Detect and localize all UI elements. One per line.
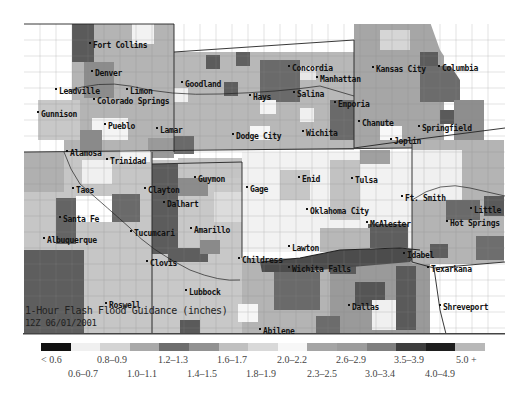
- legend-swatch: [396, 343, 426, 351]
- legend-swatch: [426, 343, 456, 351]
- city-label: Limon: [130, 87, 153, 96]
- city-label: Gage: [250, 185, 268, 194]
- legend-label: 1.4–1.5: [187, 368, 217, 379]
- legend-swatch: [337, 343, 367, 351]
- flash-flood-guidance-map: [0, 0, 519, 340]
- city-label: Emporia: [338, 100, 370, 109]
- city-label: Clovis: [150, 259, 177, 268]
- city-label: Wichita Falls: [292, 265, 351, 274]
- city-label: Idabel: [407, 251, 434, 260]
- city-label: Concordia: [292, 64, 333, 73]
- city-label: Enid: [302, 175, 320, 184]
- city-label: Texarkana: [431, 265, 472, 274]
- legend-label: 3.5–3.9: [394, 354, 424, 365]
- city-label: Goodland: [185, 80, 221, 89]
- city-label: Childress: [242, 256, 283, 265]
- city-label: Chanute: [362, 119, 394, 128]
- city-label: Lawton: [292, 244, 319, 253]
- city-label: Kansas City: [376, 65, 426, 74]
- legend-swatch: [307, 343, 337, 351]
- city-label: Fort Collins: [93, 41, 147, 50]
- legend-bottom-labels: 0.6–0.71.0–1.11.4–1.51.8–1.92.3–2.53.0–3…: [41, 368, 485, 382]
- legend-label: 5.0 +: [456, 354, 477, 365]
- legend-swatch: [130, 343, 160, 351]
- city-label: Lamar: [160, 126, 183, 135]
- legend-label: 2.3–2.5: [307, 368, 337, 379]
- legend-label: 3.0–3.4: [365, 368, 395, 379]
- city-label: Santa Fe: [63, 215, 99, 224]
- city-label: Little: [474, 206, 501, 215]
- city-label: Lubbock: [189, 288, 221, 297]
- legend-label: 2.0–2.2: [277, 354, 307, 365]
- legend-swatch: [219, 343, 249, 351]
- city-label: Dallas: [352, 303, 379, 312]
- city-label: Tucumcari: [134, 229, 175, 238]
- legend-swatch: [278, 343, 308, 351]
- city-label: Columbia: [442, 64, 478, 73]
- legend-swatch: [100, 343, 130, 351]
- legend-swatch: [189, 343, 219, 351]
- city-label: Manhattan: [320, 75, 361, 84]
- legend-swatch: [41, 343, 71, 351]
- city-label: Tulsa: [355, 176, 378, 185]
- legend-color-bar: [41, 343, 485, 351]
- city-label: Albuquerque: [47, 236, 97, 245]
- city-label: Wichita: [306, 129, 338, 138]
- legend-label: 1.8–1.9: [246, 368, 276, 379]
- map-date: 12Z 06/01/2001: [25, 318, 97, 328]
- city-label: Shreveport: [443, 303, 488, 312]
- city-label: Guymon: [198, 175, 225, 184]
- city-label: McAlester: [370, 220, 411, 229]
- city-label: Dodge City: [236, 132, 281, 141]
- legend-label: < 0.6: [41, 354, 62, 365]
- legend-label: 0.6–0.7: [68, 368, 98, 379]
- legend-top-labels: < 0.60.8–0.91.2–1.31.6–1.72.0–2.22.6–2.9…: [41, 354, 485, 368]
- city-label: Joplin: [394, 137, 421, 146]
- city-label: Ft. Smith: [405, 194, 446, 203]
- legend-label: 2.6–2.9: [336, 354, 366, 365]
- legend-label: 0.8–0.9: [97, 354, 127, 365]
- city-label: Oklahoma City: [310, 207, 369, 216]
- legend-label: 1.2–1.3: [158, 354, 188, 365]
- city-label: Leadville: [59, 87, 100, 96]
- legend-swatch: [248, 343, 278, 351]
- city-label: Clayton: [148, 186, 180, 195]
- legend-swatch: [71, 343, 101, 351]
- legend-swatch: [159, 343, 189, 351]
- city-label: Salina: [297, 90, 324, 99]
- legend-swatch: [455, 343, 485, 351]
- city-label: Alamosa: [70, 149, 102, 158]
- map-title: 1-Hour Flash Flood Guidance (inches): [25, 305, 227, 316]
- city-label: Abilene: [263, 327, 295, 336]
- city-label: Gunnison: [41, 110, 77, 119]
- legend: < 0.60.8–0.91.2–1.31.6–1.72.0–2.22.6–2.9…: [41, 343, 485, 382]
- city-label: Dalhart: [167, 200, 199, 209]
- legend-label: 4.0–4.9: [425, 368, 455, 379]
- city-label: Amarillo: [194, 226, 230, 235]
- city-label: Colorado Springs: [97, 97, 169, 106]
- city-label: Springfield: [422, 124, 472, 133]
- legend-label: 1.6–1.7: [217, 354, 247, 365]
- city-label: Pueblo: [108, 122, 135, 131]
- legend-label: 1.0–1.1: [127, 368, 157, 379]
- city-label: Hays: [253, 93, 271, 102]
- city-label: Trinidad: [110, 157, 146, 166]
- city-label: Taos: [76, 186, 94, 195]
- legend-swatch: [367, 343, 397, 351]
- city-label: Denver: [95, 69, 122, 78]
- city-label: Hot Springs: [450, 219, 500, 228]
